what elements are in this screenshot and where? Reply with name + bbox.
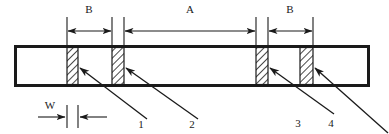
callout-label-4: 4 xyxy=(328,117,334,129)
insert-block-2 xyxy=(112,48,124,85)
insert-block-3 xyxy=(256,48,268,85)
dimension-label-b-left: B xyxy=(85,3,92,15)
diagram-canvas: B A B W 1 2 3 4 xyxy=(0,0,389,134)
cross-section-diagram: B A B W 1 2 3 4 xyxy=(0,0,389,134)
callout-label-2: 2 xyxy=(189,118,195,130)
dimension-label-w: W xyxy=(45,99,56,111)
insert-block-1 xyxy=(67,48,78,85)
callout-label-1: 1 xyxy=(138,118,144,130)
insert-block-4 xyxy=(300,48,313,85)
dimension-label-a: A xyxy=(186,3,194,15)
dimension-label-b-right: B xyxy=(286,3,293,15)
callout-label-3: 3 xyxy=(295,117,301,129)
